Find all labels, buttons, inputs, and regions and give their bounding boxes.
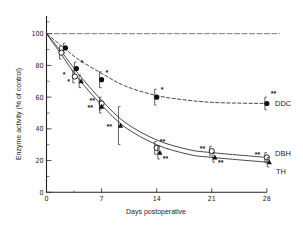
y-tick-label: 40 xyxy=(35,125,43,133)
significance-marker: ** xyxy=(271,90,277,97)
x-axis-title: Days postoperative xyxy=(126,208,186,216)
y-tick-label: 0 xyxy=(39,189,43,197)
y-axis-title: Enzyme activity (% of control) xyxy=(15,68,23,160)
filled-circle-marker-icon xyxy=(63,45,68,50)
significance-marker: ** xyxy=(255,151,261,158)
data-point-ddc: * xyxy=(74,59,84,75)
significance-marker: ** xyxy=(163,155,169,162)
open-circle-marker-icon xyxy=(59,50,64,55)
series-label-dbh: DBH xyxy=(275,149,291,158)
series-label-ddc: DDC xyxy=(275,99,292,108)
significance-marker: * xyxy=(63,71,66,78)
significance-marker: * xyxy=(161,86,164,93)
significance-marker: * xyxy=(80,59,83,66)
x-tick-label: 28 xyxy=(263,195,271,203)
curve-ddc xyxy=(47,34,267,104)
significance-marker: ** xyxy=(218,159,224,166)
open-circle-marker-icon xyxy=(72,74,77,79)
data-point-ddc: * xyxy=(99,69,109,88)
significance-marker: ** xyxy=(106,123,112,130)
filled-circle-marker-icon xyxy=(264,101,269,106)
x-tick-label: 0 xyxy=(44,195,48,203)
filled-circle-marker-icon xyxy=(154,95,159,100)
axes: 02040608010007142128 xyxy=(31,16,280,203)
data-point-dbh: ** xyxy=(200,145,215,156)
data-point-dbh: * xyxy=(63,70,78,83)
filled-circle-marker-icon xyxy=(99,77,104,82)
series-label-th: TH xyxy=(276,167,286,176)
y-tick-label: 80 xyxy=(35,62,43,70)
x-tick-label: 7 xyxy=(100,195,104,203)
y-tick-label: 100 xyxy=(31,30,43,38)
significance-marker: * xyxy=(67,78,70,85)
data-point-th: ** xyxy=(212,153,223,167)
significance-marker: ** xyxy=(200,145,206,152)
x-tick-label: 14 xyxy=(153,195,161,203)
y-tick-label: 20 xyxy=(35,157,43,165)
significance-marker: * xyxy=(106,69,109,76)
x-tick-label: 21 xyxy=(208,195,216,203)
significance-marker: ** xyxy=(160,138,166,145)
enzyme-activity-chart: 02040608010007142128 *******************… xyxy=(0,0,303,225)
y-tick-label: 60 xyxy=(35,94,43,102)
significance-marker: ** xyxy=(88,104,94,111)
